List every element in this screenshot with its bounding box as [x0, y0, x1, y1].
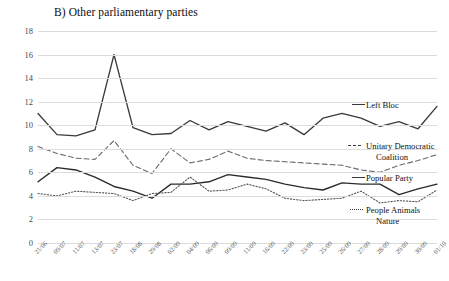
- y-axis-tick-label: 18: [25, 26, 34, 36]
- gridline: [38, 78, 437, 79]
- series-line: [38, 55, 437, 136]
- chart-title: B) Other parliamentary parties: [54, 6, 198, 18]
- legend-swatch: [348, 145, 361, 146]
- y-axis-tick-label: 10: [25, 120, 34, 130]
- gridline: [38, 31, 437, 32]
- y-axis-tick-label: 8: [29, 144, 33, 154]
- y-axis-tick-label: 6: [29, 167, 33, 177]
- legend-label: Unitary DemocraticCoalition: [366, 141, 434, 162]
- gridline: [38, 196, 437, 197]
- chart-container: B) Other parliamentary parties 024681012…: [0, 0, 449, 281]
- legend-swatch: [352, 177, 365, 178]
- y-axis-tick-label: 16: [25, 50, 34, 60]
- legend-label: Left Bloc: [366, 100, 399, 111]
- x-axis: 21/0609/0711/0713/0723/0718/0829/0802/09…: [38, 245, 437, 281]
- gridline: [38, 125, 437, 126]
- y-axis-tick-label: 12: [25, 97, 34, 107]
- legend-swatch: [352, 104, 365, 105]
- y-axis-tick-label: 14: [25, 73, 34, 83]
- legend-swatch: [350, 209, 363, 210]
- legend-label: Popular Party: [366, 173, 413, 184]
- x-axis-tick-label: 21/06: [33, 240, 49, 256]
- y-axis-tick-label: 4: [29, 191, 33, 201]
- y-axis-tick-label: 0: [29, 238, 33, 248]
- y-axis-tick-label: 2: [29, 214, 33, 224]
- legend-label: People AnimalsNature: [366, 205, 420, 226]
- gridline: [38, 55, 437, 56]
